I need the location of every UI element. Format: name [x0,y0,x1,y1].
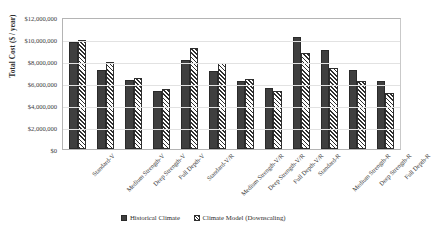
y-axis-tick-labels: $12,000,000$10,000,000$8,000,000$6,000,0… [0,0,60,244]
y-axis-tick-label: $12,000,000 [25,15,57,22]
bar-model [162,89,171,149]
legend-label: Climate Model (Downscaling) [202,214,285,221]
bar-model [78,40,87,149]
legend-label: Historical Climate [130,214,180,221]
bar-model [245,79,254,149]
bar-historical [209,71,218,149]
chart-legend: Historical ClimateClimate Model (Downsca… [0,214,407,221]
gridline [63,107,400,108]
bar-historical [97,70,106,149]
x-axis-tick-labels: Standard-VMedium Strength-VDeep Strength… [62,150,401,206]
bar-historical [181,60,190,149]
legend-swatch-icon [121,215,127,221]
legend-item: Climate Model (Downscaling) [194,214,286,221]
y-axis-tick-label: $8,000,000 [28,59,57,66]
bar-model [106,62,115,149]
bar-historical [125,80,134,149]
bar-historical [69,42,78,149]
y-axis-tick-label: $10,000,000 [25,37,57,44]
bar-historical [349,70,358,149]
bar-model [301,53,310,149]
bar-historical [237,81,246,149]
legend-swatch-icon [194,215,200,221]
bar-historical [293,37,302,149]
gridline [63,129,400,130]
legend-item: Historical Climate [121,214,180,221]
gridline [63,63,400,64]
bar-model [134,78,143,150]
x-axis-tick-label: Standard-V [91,152,116,177]
gridline [63,85,400,86]
bar-model [357,81,366,149]
bar-historical [265,88,274,149]
y-axis-tick-label: $0 [51,147,58,154]
bar-historical [377,81,386,149]
bar-historical [153,91,162,149]
bar-model [273,91,282,149]
bar-historical [321,50,330,149]
y-axis-tick-label: $4,000,000 [28,103,57,110]
gridline [63,41,400,42]
y-axis-tick-label: $6,000,000 [28,81,57,88]
bar-model [329,68,338,149]
bar-model [385,93,394,149]
y-axis-tick-label: $2,000,000 [28,125,57,132]
plot-area [62,18,401,150]
x-axis-tick-label: Standard-V/R [205,152,235,182]
